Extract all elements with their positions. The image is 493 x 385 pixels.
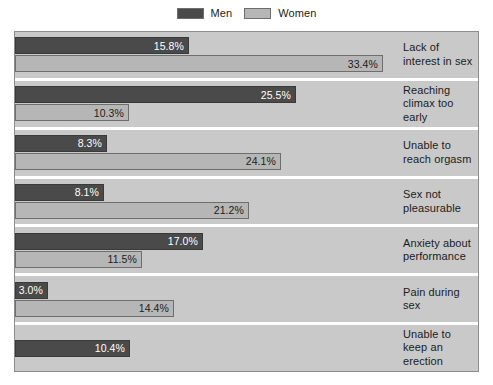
legend-item-men: Men (177, 8, 233, 19)
bar-group: 15.8%33.4%Lack of interest in sex (15, 32, 478, 81)
bar-value-label: 14.4% (139, 303, 173, 314)
legend-item-women: Women (244, 8, 316, 19)
bar-group-bars: 10.4% (15, 325, 390, 371)
category-label-text: Reaching climax too early (403, 84, 478, 125)
bar-chart: Men Women 15.8%33.4%Lack of interest in … (0, 0, 493, 385)
bar-row: 21.2% (15, 202, 390, 219)
bar-group-bars: 17.0%11.5% (15, 227, 390, 273)
bar-women[interactable]: 10.3% (15, 104, 129, 121)
bar-row: 17.0% (15, 233, 390, 250)
bar-value-label: 21.2% (214, 205, 248, 216)
bar-row: 10.4% (15, 340, 390, 357)
bar-value-label: 11.5% (108, 254, 142, 265)
bar-value-label: 8.1% (75, 187, 103, 198)
bar-men[interactable]: 8.3% (15, 135, 107, 152)
bar-value-label: 3.0% (19, 285, 47, 296)
bar-men[interactable]: 25.5% (15, 86, 296, 103)
bar-women[interactable]: 21.2% (15, 202, 249, 219)
category-label: Unable to reach orgasm (390, 130, 478, 176)
bar-row: 24.1% (15, 153, 390, 170)
bar-women[interactable]: 33.4% (15, 55, 383, 72)
bar-row: 25.5% (15, 86, 390, 103)
legend-swatch-icon-women (244, 8, 271, 19)
bar-row: 14.4% (15, 300, 390, 317)
legend-label-women: Women (278, 8, 316, 19)
bar-group: 25.5%10.3%Reaching climax too early (15, 81, 478, 130)
bar-row: 8.3% (15, 135, 390, 152)
bar-group-bars: 8.1%21.2% (15, 179, 390, 225)
bar-value-label: 10.3% (94, 108, 128, 119)
category-label-text: Unable to reach orgasm (403, 139, 478, 166)
category-label: Sex not pleasurable (390, 179, 478, 225)
category-label-text: Lack of interest in sex (403, 41, 478, 68)
bar-group-list: 15.8%33.4%Lack of interest in sex25.5%10… (15, 32, 478, 371)
bar-row: 11.5% (15, 251, 390, 268)
category-label-text: Pain during sex (403, 286, 478, 313)
category-label-text: Anxiety about performance (403, 237, 478, 264)
bar-women[interactable]: 24.1% (15, 153, 281, 170)
category-label-text: Sex not pleasurable (403, 188, 478, 215)
category-label: Anxiety about performance (390, 227, 478, 273)
bar-row: 15.8% (15, 37, 390, 54)
plot-area: 15.8%33.4%Lack of interest in sex25.5%10… (14, 31, 479, 372)
bar-row: 3.0% (15, 282, 390, 299)
bar-men[interactable]: 8.1% (15, 184, 104, 201)
bar-value-label: 8.3% (78, 138, 106, 149)
bar-group-bars: 15.8%33.4% (15, 32, 390, 78)
bar-group: 17.0%11.5%Anxiety about performance (15, 227, 478, 276)
bar-value-label: 17.0% (168, 236, 202, 247)
category-label: Unable to keep an erection (390, 325, 478, 371)
category-label: Lack of interest in sex (390, 32, 478, 78)
bar-group: 3.0%14.4%Pain during sex (15, 276, 478, 325)
legend-label-men: Men (211, 8, 233, 19)
legend-swatch-icon-men (177, 8, 204, 19)
bar-row: 10.3% (15, 104, 390, 121)
bar-men[interactable]: 15.8% (15, 37, 189, 54)
bar-group: 10.4%Unable to keep an erection (15, 325, 478, 371)
category-label-text: Unable to keep an erection (403, 328, 478, 369)
bar-men[interactable]: 10.4% (15, 340, 130, 357)
bar-row: 8.1% (15, 184, 390, 201)
bar-group-bars: 8.3%24.1% (15, 130, 390, 176)
bar-value-label: 25.5% (261, 90, 295, 101)
bar-value-label: 24.1% (246, 156, 280, 167)
bar-men[interactable]: 17.0% (15, 233, 203, 250)
bar-value-label: 33.4% (348, 59, 382, 70)
bar-group: 8.1%21.2%Sex not pleasurable (15, 179, 478, 228)
category-label: Pain during sex (390, 276, 478, 322)
bar-group: 8.3%24.1%Unable to reach orgasm (15, 130, 478, 179)
bar-men[interactable]: 3.0% (15, 282, 48, 299)
bar-women[interactable]: 14.4% (15, 300, 174, 317)
bar-group-bars: 25.5%10.3% (15, 81, 390, 127)
bar-value-label: 15.8% (154, 41, 188, 52)
bar-value-label: 10.4% (95, 343, 129, 354)
bar-women[interactable]: 11.5% (15, 251, 142, 268)
category-label: Reaching climax too early (390, 81, 478, 127)
bar-row: 33.4% (15, 55, 390, 72)
chart-legend: Men Women (0, 0, 493, 27)
bar-group-bars: 3.0%14.4% (15, 276, 390, 322)
